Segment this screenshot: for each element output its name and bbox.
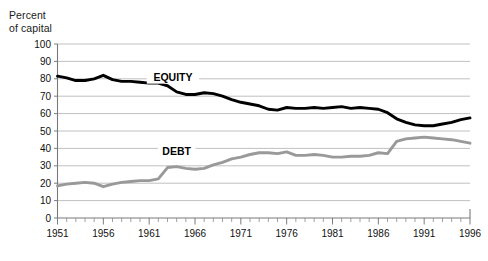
y-tick-label: 60 [40, 108, 52, 119]
y-tick-label: 50 [40, 126, 52, 137]
y-tick-label: 30 [40, 160, 52, 171]
y-tick-label: 90 [40, 56, 52, 67]
y-tick-label: 0 [45, 213, 51, 224]
x-tick-label: 1961 [138, 228, 161, 239]
y-tick-labels-group: 0102030405060708090100 [34, 39, 51, 224]
x-tick-label: 1986 [367, 228, 390, 239]
series-line-equity [58, 75, 471, 125]
series-label-debt: DEBT [162, 145, 191, 157]
series-line-debt [58, 137, 471, 187]
x-tick-label: 1956 [92, 228, 115, 239]
x-tick-label: 1951 [46, 228, 69, 239]
line-chart-plot: 0102030405060708090100 19511956196119661… [0, 0, 488, 261]
y-tick-label: 40 [40, 143, 52, 154]
x-tick-marks-group [58, 218, 471, 225]
x-tick-label: 1976 [276, 228, 299, 239]
y-tick-label: 10 [40, 195, 52, 206]
x-tick-label: 1971 [230, 228, 253, 239]
chart-figure: Percent of capital 010203040506070809010… [0, 0, 488, 261]
series-label-equity: EQUITY [153, 71, 192, 83]
y-tick-label: 70 [40, 91, 52, 102]
y-tick-label: 100 [34, 39, 51, 50]
x-tick-label: 1981 [321, 228, 344, 239]
y-tick-label: 20 [40, 178, 52, 189]
x-tick-labels-group: 1951195619611966197119761981198619911996 [46, 228, 481, 239]
x-tick-label: 1991 [413, 228, 436, 239]
x-tick-label: 1966 [184, 228, 207, 239]
x-tick-label: 1996 [459, 228, 482, 239]
y-tick-label: 80 [40, 73, 52, 84]
